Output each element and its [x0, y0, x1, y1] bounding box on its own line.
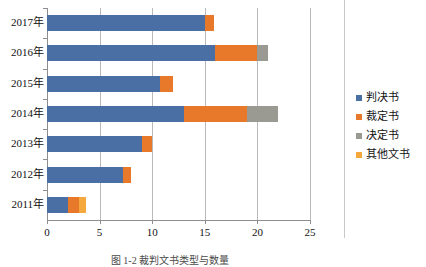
- x-axis-tick: [100, 220, 101, 224]
- x-axis-tick-label: 10: [132, 226, 172, 239]
- bar-segment: [47, 76, 160, 92]
- x-axis-tick: [152, 220, 153, 224]
- bar-segment: [123, 167, 131, 183]
- bar-segment: [205, 15, 214, 31]
- bar-row: [47, 197, 310, 213]
- legend-swatch-icon: [356, 152, 362, 158]
- y-axis-label: 2015年: [0, 77, 44, 90]
- legend-label: 判决书: [366, 91, 399, 104]
- bar-row: [47, 106, 310, 122]
- bar-segment: [47, 197, 68, 213]
- bar-segment: [160, 76, 174, 92]
- bar-segment: [215, 45, 257, 61]
- y-axis-tick: [43, 159, 47, 160]
- legend-label: 裁定书: [366, 110, 399, 123]
- x-axis-line: [47, 220, 311, 221]
- bar-segment: [47, 167, 123, 183]
- y-axis-tick: [43, 190, 47, 191]
- legend-item: 其他文书: [356, 145, 422, 164]
- legend-swatch-icon: [356, 95, 362, 101]
- legend-swatch-icon: [356, 133, 362, 139]
- legend-label: 决定书: [366, 129, 399, 142]
- legend-swatch-icon: [356, 114, 362, 120]
- x-axis-tick: [205, 220, 206, 224]
- chart-legend: 判决书裁定书决定书其他文书: [356, 88, 422, 164]
- x-axis-tick-label: 5: [80, 226, 120, 239]
- y-axis-label: 2017年: [0, 16, 44, 29]
- gridline: [310, 8, 311, 220]
- y-axis-label: 2016年: [0, 46, 44, 59]
- chart-border-rule: [344, 0, 345, 238]
- y-axis-tick: [43, 8, 47, 9]
- y-axis-tick: [43, 38, 47, 39]
- y-axis-label: 2011年: [0, 198, 44, 211]
- bar-row: [47, 15, 310, 31]
- legend-item: 裁定书: [356, 107, 422, 126]
- x-axis-tick: [310, 220, 311, 224]
- x-axis-tick-label: 0: [27, 226, 67, 239]
- y-axis-label: 2013年: [0, 137, 44, 150]
- bar-row: [47, 167, 310, 183]
- legend-label: 其他文书: [366, 148, 410, 161]
- figure-caption: 图 1-2 裁判文书类型与数量: [0, 255, 340, 267]
- bar-segment: [47, 45, 215, 61]
- bar-segment: [68, 197, 79, 213]
- y-axis-tick: [43, 129, 47, 130]
- y-axis-label: 2012年: [0, 168, 44, 181]
- legend-item: 决定书: [356, 126, 422, 145]
- y-axis-tick: [43, 99, 47, 100]
- x-axis-tick: [257, 220, 258, 224]
- x-axis-tick-label: 25: [290, 226, 330, 239]
- bar-segment: [79, 197, 86, 213]
- x-axis-tick: [47, 220, 48, 224]
- bar-segment: [47, 136, 142, 152]
- bar-row: [47, 76, 310, 92]
- bar-segment: [247, 106, 279, 122]
- bar-segment: [184, 106, 247, 122]
- bar-segment: [47, 15, 205, 31]
- figure: 0510152025 2017年2016年2015年2014年2013年2012…: [0, 0, 426, 267]
- x-axis-tick-label: 15: [185, 226, 225, 239]
- bar-segment: [257, 45, 268, 61]
- bar-segment: [47, 106, 184, 122]
- y-axis-label: 2014年: [0, 107, 44, 120]
- x-axis-tick-label: 20: [237, 226, 277, 239]
- legend-item: 判决书: [356, 88, 422, 107]
- y-axis-tick: [43, 69, 47, 70]
- bar-segment: [142, 136, 153, 152]
- bar-row: [47, 45, 310, 61]
- bar-chart: 0510152025 2017年2016年2015年2014年2013年2012…: [0, 0, 340, 240]
- bar-row: [47, 136, 310, 152]
